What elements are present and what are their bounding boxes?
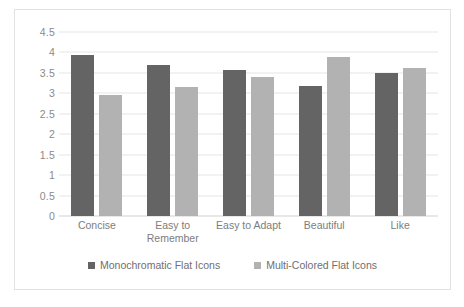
y-axis-tick: 4	[49, 46, 55, 58]
y-axis: 4.543.532.521.510.50	[21, 32, 55, 216]
x-axis-label: Concise	[59, 219, 135, 245]
y-axis-tick: 2.5	[40, 108, 55, 120]
y-axis-tick: 3	[49, 87, 55, 99]
legend-item[interactable]: Monochromatic Flat Icons	[88, 259, 220, 271]
bar-group	[286, 32, 362, 216]
legend-swatch-icon	[88, 262, 95, 269]
legend-label: Monochromatic Flat Icons	[100, 259, 220, 271]
chart-legend: Monochromatic Flat IconsMulti-Colored Fl…	[15, 259, 450, 271]
bar[interactable]	[147, 65, 170, 216]
bar-group	[211, 32, 287, 216]
bar[interactable]	[327, 57, 350, 216]
chart-frame: 4.543.532.521.510.50 ConciseEasy to Reme…	[14, 9, 451, 290]
bar[interactable]	[71, 55, 94, 217]
y-axis-tick: 4.5	[40, 26, 55, 38]
bar-group	[362, 32, 438, 216]
legend-label: Multi-Colored Flat Icons	[266, 259, 377, 271]
y-axis-tick: 0	[49, 210, 55, 222]
plot-area	[59, 32, 438, 216]
y-axis-tick: 1	[49, 169, 55, 181]
legend-item[interactable]: Multi-Colored Flat Icons	[254, 259, 377, 271]
x-axis-label: Like	[362, 219, 438, 245]
y-axis-tick: 2	[49, 128, 55, 140]
plot-wrapper: 4.543.532.521.510.50 ConciseEasy to Reme…	[15, 10, 450, 289]
y-axis-tick: 0.5	[40, 190, 55, 202]
x-axis-label: Easy to Remember	[135, 219, 211, 245]
y-axis-tick: 3.5	[40, 67, 55, 79]
bar[interactable]	[299, 86, 322, 216]
bar[interactable]	[223, 70, 246, 216]
x-axis-label: Beautiful	[286, 219, 362, 245]
bar-group	[59, 32, 135, 216]
bar[interactable]	[403, 68, 426, 216]
bar[interactable]	[99, 95, 122, 216]
x-axis-labels: ConciseEasy to RememberEasy to AdaptBeau…	[59, 219, 438, 245]
bar[interactable]	[175, 87, 198, 216]
legend-swatch-icon	[254, 262, 261, 269]
y-axis-tick: 1.5	[40, 149, 55, 161]
bar-group	[135, 32, 211, 216]
bar[interactable]	[251, 77, 274, 216]
x-axis-label: Easy to Adapt	[211, 219, 287, 245]
bar[interactable]	[375, 73, 398, 216]
